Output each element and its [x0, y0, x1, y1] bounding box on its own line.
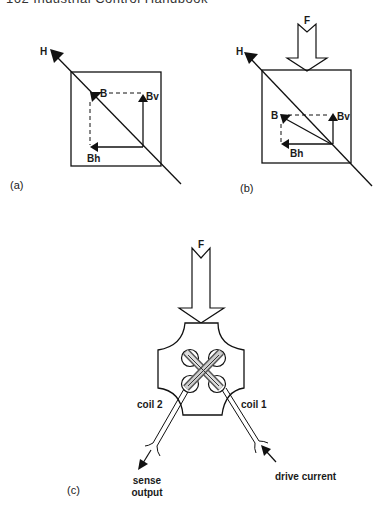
force-arrow-icon	[179, 248, 224, 323]
label-b: B	[100, 88, 107, 99]
drive-current-arrow	[266, 451, 276, 462]
label-bh: Bh	[290, 148, 303, 159]
h-field-line	[250, 58, 372, 186]
h-arrowhead-icon	[244, 52, 258, 64]
panel-b: F H B Bv Bh (b)	[236, 15, 372, 194]
sense-output-arrow	[143, 450, 151, 463]
label-h: H	[236, 46, 243, 57]
caption-a: (a)	[10, 179, 23, 191]
bh-arrowhead-icon	[281, 139, 289, 149]
caption-b: (b)	[240, 182, 253, 194]
panel-a: H B Bv Bh (a)	[10, 46, 181, 191]
label-coil1: coil 1	[241, 399, 267, 410]
bh-arrowhead-icon	[90, 142, 98, 152]
label-output: output	[131, 487, 163, 498]
panel-c: F	[67, 239, 337, 498]
label-b: B	[271, 110, 278, 121]
label-bh: Bh	[87, 153, 100, 164]
label-coil2: coil 2	[137, 399, 163, 410]
label-sense: sense	[133, 475, 162, 486]
label-f: F	[304, 15, 310, 26]
sense-arrowhead-icon	[138, 459, 148, 470]
h-arrowhead-icon	[50, 49, 64, 63]
label-h: H	[40, 46, 47, 57]
figure: H B Bv Bh (a) F H B Bv B	[0, 0, 390, 514]
h-field-line	[56, 56, 181, 184]
force-arrow-icon	[287, 24, 327, 71]
coil1-leads	[222, 388, 268, 453]
label-bv: Bv	[146, 91, 159, 102]
label-drive-current: drive current	[275, 471, 337, 482]
label-bv: Bv	[337, 111, 350, 122]
label-f: F	[198, 239, 204, 250]
caption-c: (c)	[67, 484, 80, 496]
b-vector	[284, 118, 331, 144]
